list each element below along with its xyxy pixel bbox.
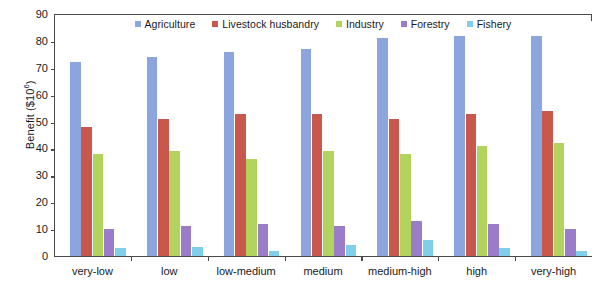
bar [323,151,334,256]
legend-label: Fishery [477,18,512,30]
legend-swatch-icon [467,21,473,27]
bar [258,224,269,256]
bar [70,62,81,256]
bar [477,146,488,256]
x-axis-tick [131,256,132,261]
y-axis-tick-label: 70 [26,62,48,73]
bar [301,49,312,256]
legend-label: Agriculture [145,18,196,30]
bar [565,229,576,256]
bar [334,226,345,256]
x-axis-tick [438,256,439,261]
bar [377,38,388,256]
bar [93,154,104,256]
x-axis-tick-label: very-high [531,265,576,277]
bar [104,229,115,256]
bar [115,248,126,256]
legend-item-agriculture[interactable]: Agriculture [135,18,196,30]
x-axis-tick-label: medium [303,265,342,277]
bar [224,52,235,256]
legend-label: Industry [346,18,384,30]
y-axis-tick-label: 50 [26,116,48,127]
bar [346,245,357,256]
y-axis-tick-label: 20 [26,197,48,208]
legend-item-livestock-husbandry[interactable]: Livestock husbandry [212,18,319,30]
x-axis-tick-label: high [466,265,487,277]
bar [423,240,434,256]
legend-item-fishery[interactable]: Fishery [467,18,512,30]
legend-swatch-icon [401,21,407,27]
x-axis-tick [285,256,286,261]
legend-swatch-icon [135,21,141,27]
x-axis-tick-label: very-low [72,265,113,277]
bar [499,248,510,256]
x-axis-line [54,256,592,257]
bar [312,114,323,257]
bar [411,221,422,256]
legend-label: Livestock husbandry [222,18,319,30]
legend-item-industry[interactable]: Industry [336,18,384,30]
x-axis-tick [208,256,209,261]
bar [192,247,203,256]
bar [400,154,411,256]
bar [454,36,465,256]
y-axis-tick-label: 60 [26,89,48,100]
bar [81,127,92,256]
y-axis-tick-label: 80 [26,35,48,46]
x-axis-tick-label: medium-high [368,265,432,277]
bar [181,226,192,256]
bar [389,119,400,256]
bar [158,119,169,256]
y-axis-tick-label: 0 [26,251,48,262]
y-axis-tick-label: 40 [26,143,48,154]
x-axis-tick [361,256,362,261]
bar [542,111,553,256]
bar [169,151,180,256]
x-axis-tick [515,256,516,261]
benefit-bar-chart: Benefit ($106) 0102030405060708090 very-… [0,0,599,285]
y-axis-tick-labels: 0102030405060708090 [26,0,48,285]
bar [531,36,542,256]
legend-swatch-icon [212,21,218,27]
y-axis-tick-label: 90 [26,9,48,20]
bar [554,143,565,256]
x-axis-tick-label: low [161,265,178,277]
legend-swatch-icon [336,21,342,27]
y-axis-tick-label: 30 [26,170,48,181]
legend-item-forestry[interactable]: Forestry [401,18,450,30]
bar [488,224,499,256]
legend-label: Forestry [411,18,450,30]
bar [466,114,477,257]
bars-layer [54,14,592,256]
x-axis-tick-label: low-medium [216,265,275,277]
bar [147,57,158,256]
bar [235,114,246,257]
y-axis-tick-label: 10 [26,224,48,235]
bar [246,159,257,256]
